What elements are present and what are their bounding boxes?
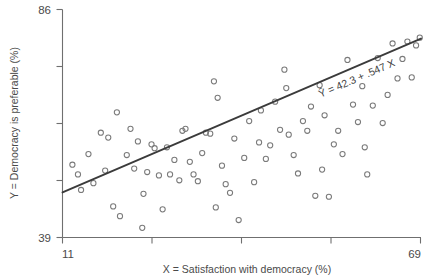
plot-canvas: Ŷ = 42.3 + .547 X 86 39 11 69 X = Satisf…: [0, 0, 428, 279]
data-point: [345, 57, 350, 62]
data-point: [156, 173, 161, 178]
data-point: [268, 143, 273, 148]
x-axis-ticks: [63, 238, 421, 244]
data-point: [213, 205, 218, 210]
data-point: [195, 179, 200, 184]
data-point: [322, 113, 327, 118]
regression-line: [63, 39, 422, 193]
data-point: [211, 79, 216, 84]
scatter-plot-figure: Ŷ = 42.3 + .547 X 86 39 11 69 X = Satisf…: [0, 0, 428, 279]
data-point: [75, 172, 80, 177]
data-point: [308, 104, 313, 109]
data-point: [160, 207, 165, 212]
data-point: [385, 92, 390, 97]
data-point: [291, 152, 296, 157]
data-point: [236, 217, 241, 222]
data-point: [286, 132, 291, 137]
data-point: [355, 119, 360, 124]
data-point: [227, 190, 232, 195]
data-point: [370, 103, 375, 108]
data-point: [326, 194, 331, 199]
data-point: [313, 193, 318, 198]
data-point: [282, 67, 287, 72]
data-point: [362, 145, 367, 150]
data-point: [300, 118, 305, 123]
data-point: [360, 84, 365, 89]
data-point: [223, 182, 228, 187]
data-point: [152, 146, 157, 151]
data-point: [295, 171, 300, 176]
data-point: [145, 169, 150, 174]
data-point: [187, 159, 192, 164]
data-point: [141, 191, 146, 196]
data-point: [340, 151, 345, 156]
data-point: [114, 110, 119, 115]
data-point: [172, 157, 177, 162]
data-point: [409, 75, 414, 80]
data-point: [284, 85, 289, 90]
data-points-group: [70, 35, 423, 230]
data-point: [111, 204, 116, 209]
y-axis-min-label: 39: [38, 232, 51, 244]
data-point: [305, 128, 310, 133]
data-point: [331, 142, 336, 147]
y-axis-max-label: 86: [38, 4, 51, 16]
data-point: [135, 139, 140, 144]
data-point: [86, 151, 91, 156]
data-point: [390, 41, 395, 46]
data-point: [177, 178, 182, 183]
data-point: [277, 127, 282, 132]
data-point: [98, 130, 103, 135]
data-point: [106, 135, 111, 140]
data-point: [132, 166, 137, 171]
data-point: [140, 225, 145, 230]
data-point: [247, 118, 252, 123]
y-axis-ticks: [57, 10, 63, 238]
data-point: [167, 172, 172, 177]
data-point: [70, 162, 75, 167]
data-point: [380, 120, 385, 125]
data-point: [191, 172, 196, 177]
data-point: [124, 152, 129, 157]
data-point: [232, 136, 237, 141]
data-point: [336, 128, 341, 133]
data-point: [252, 180, 257, 185]
data-point: [117, 214, 122, 219]
data-point: [365, 172, 370, 177]
x-axis-title: X = Satisfaction with democracy (%): [163, 263, 331, 275]
x-axis-min-label: 11: [62, 248, 74, 260]
data-point: [78, 187, 83, 192]
data-point: [128, 126, 133, 131]
data-point: [256, 140, 261, 145]
data-point: [263, 156, 268, 161]
data-point: [320, 167, 325, 172]
data-point: [395, 76, 400, 81]
data-point: [200, 150, 205, 155]
y-axis-title: Y = Democracy is preferable (%): [8, 47, 20, 199]
data-point: [413, 43, 418, 48]
data-point: [242, 155, 247, 160]
data-point: [219, 163, 224, 168]
data-point: [91, 181, 96, 186]
data-point: [215, 95, 220, 100]
x-axis-max-label: 69: [408, 248, 421, 260]
data-point: [400, 56, 405, 61]
data-point: [350, 102, 355, 107]
